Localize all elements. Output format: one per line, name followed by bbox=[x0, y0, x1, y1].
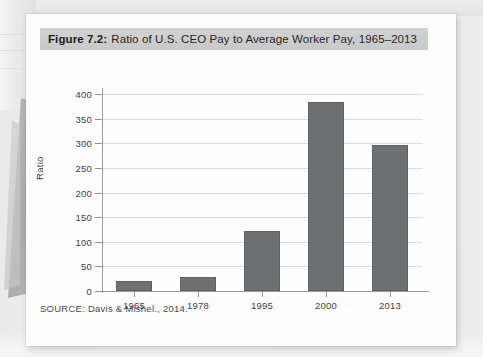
x-axis-ticks bbox=[102, 292, 422, 298]
bar bbox=[308, 102, 344, 291]
screenshot-root: Figure 7.2: Ratio of U.S. CEO Pay to Ave… bbox=[0, 0, 483, 357]
y-axis-tick-label: 50 bbox=[48, 261, 92, 272]
x-axis-tick-label: 2000 bbox=[315, 300, 337, 311]
y-axis-labels: 050100150200250300350400 bbox=[40, 62, 92, 312]
y-axis-tick bbox=[95, 168, 102, 169]
y-axis-tick-label: 350 bbox=[48, 113, 92, 124]
x-axis-tick-label: 1978 bbox=[187, 300, 209, 311]
x-axis-tick bbox=[390, 292, 391, 297]
y-axis-tick bbox=[95, 119, 102, 120]
y-axis-tick-label: 300 bbox=[48, 138, 92, 149]
y-axis-tick bbox=[95, 94, 102, 95]
bar-series bbox=[102, 94, 422, 291]
figure-source: SOURCE: Davis & Mishel., 2014. bbox=[40, 303, 188, 314]
figure-caption-number: Figure 7.2: bbox=[48, 33, 107, 45]
y-axis-tick bbox=[95, 242, 102, 243]
bar bbox=[244, 231, 280, 291]
y-axis-tick-label: 250 bbox=[48, 162, 92, 173]
bar bbox=[372, 145, 408, 291]
x-axis-tick-label: 2013 bbox=[379, 300, 401, 311]
y-axis-tick-label: 150 bbox=[48, 212, 92, 223]
y-axis-tick bbox=[95, 266, 102, 267]
y-axis-tick bbox=[95, 217, 102, 218]
x-axis-tick-label: 1995 bbox=[251, 300, 273, 311]
y-axis-tick bbox=[95, 143, 102, 144]
y-axis-tick-label: 0 bbox=[48, 286, 92, 297]
x-axis-tick bbox=[198, 292, 199, 297]
bar bbox=[180, 277, 216, 291]
figure-caption-band: Figure 7.2: Ratio of U.S. CEO Pay to Ave… bbox=[40, 28, 428, 50]
x-axis-tick bbox=[134, 292, 135, 297]
bar-chart: Ratio 050100150200250300350400 196519781… bbox=[40, 62, 444, 312]
y-axis-tick-label: 200 bbox=[48, 187, 92, 198]
y-axis-tick-label: 400 bbox=[48, 89, 92, 100]
y-axis-tick bbox=[95, 193, 102, 194]
y-axis-tick bbox=[95, 291, 102, 292]
figure-caption-text: Ratio of U.S. CEO Pay to Average Worker … bbox=[111, 33, 417, 45]
x-axis-tick bbox=[262, 292, 263, 297]
y-axis-tick-label: 100 bbox=[48, 236, 92, 247]
x-axis-tick bbox=[326, 292, 327, 297]
bar bbox=[116, 281, 152, 291]
book-page: Figure 7.2: Ratio of U.S. CEO Pay to Ave… bbox=[26, 14, 456, 346]
